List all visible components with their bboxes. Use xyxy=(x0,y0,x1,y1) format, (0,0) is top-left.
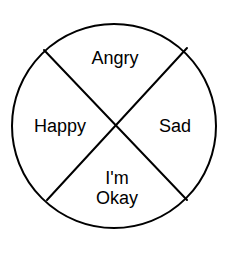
sector-label-happy[interactable]: Happy xyxy=(34,116,86,136)
sector-label-im-okay[interactable]: I'm Okay xyxy=(96,168,138,208)
sector-label-sad[interactable]: Sad xyxy=(159,116,191,136)
emotion-wheel: Angry Happy Sad I'm Okay xyxy=(0,0,229,254)
sector-label-angry[interactable]: Angry xyxy=(91,48,138,68)
